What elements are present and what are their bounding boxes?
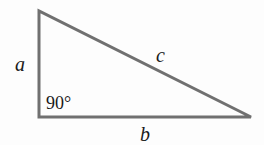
right-angle-label: 90° xyxy=(46,94,71,112)
side-b-label: b xyxy=(140,124,150,144)
side-a-label: a xyxy=(15,54,25,74)
right-triangle-diagram: a c b 90° xyxy=(0,0,264,145)
triangle-shape xyxy=(0,0,264,145)
hypotenuse-c-label: c xyxy=(156,45,165,65)
